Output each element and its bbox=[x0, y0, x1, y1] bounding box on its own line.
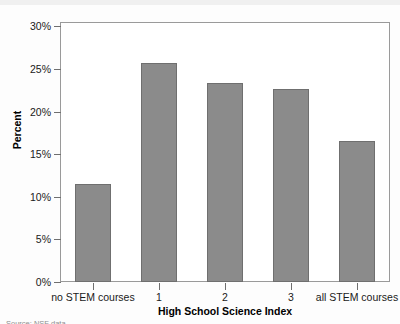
bar bbox=[207, 83, 243, 282]
x-axis-title: High School Science Index bbox=[60, 306, 390, 317]
y-axis-tick-label: 15% bbox=[0, 149, 51, 160]
y-axis-tick-label: 0% bbox=[0, 277, 51, 288]
y-axis-title: Percent bbox=[11, 85, 23, 175]
x-axis-tick bbox=[291, 283, 292, 290]
bar bbox=[75, 184, 111, 282]
x-axis-tick bbox=[357, 283, 358, 290]
y-axis-tick-label: 20% bbox=[0, 107, 51, 118]
bar bbox=[273, 89, 309, 282]
y-axis-tick-label: 30% bbox=[0, 21, 51, 32]
bar-series bbox=[60, 22, 390, 282]
figure-top-band bbox=[0, 0, 400, 5]
bar bbox=[141, 63, 177, 282]
y-axis-tick-label: 5% bbox=[0, 234, 51, 245]
x-axis-tick bbox=[225, 283, 226, 290]
source-note: Source: NSF data bbox=[6, 319, 66, 324]
y-axis-tick-label: 10% bbox=[0, 192, 51, 203]
bar bbox=[339, 141, 375, 283]
x-axis-tick-label: all STEM courses bbox=[297, 292, 400, 303]
x-axis-tick bbox=[159, 283, 160, 290]
y-axis-tick-label: 25% bbox=[0, 64, 51, 75]
y-axis-tick bbox=[54, 282, 61, 283]
chart-figure: Percent 0%5%10%15%20%25%30% no STEM cour… bbox=[0, 0, 400, 324]
x-axis-tick bbox=[93, 283, 94, 290]
